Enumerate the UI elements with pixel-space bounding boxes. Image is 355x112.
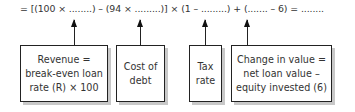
tax-rate-box-label: Tax rate	[196, 60, 216, 88]
arrow-up-icon	[247, 20, 248, 45]
arrow-up-icon	[74, 20, 75, 45]
arrowhead-icon	[137, 19, 143, 27]
arrowhead-icon	[71, 19, 77, 27]
change-in-value-box: Change in value = net loan value – equit…	[231, 45, 332, 102]
revenue-box-label: Revenue = break-even loan rate (R) × 100	[25, 53, 103, 95]
arrow-up-icon	[205, 20, 206, 45]
change-in-value-box-label: Change in value = net loan value – equit…	[236, 53, 327, 95]
arrowhead-icon	[244, 19, 250, 27]
arrow-up-icon	[140, 20, 141, 45]
tax-rate-box: Tax rate	[189, 45, 222, 102]
revenue-box: Revenue = break-even loan rate (R) × 100	[20, 45, 108, 102]
formula-equation: = [(100 × ........) – (94 × .........)] …	[20, 3, 320, 14]
arrowhead-icon	[202, 19, 208, 27]
cost-of-debt-box: Cost of debt	[116, 45, 165, 102]
cost-of-debt-box-label: Cost of debt	[124, 60, 158, 88]
